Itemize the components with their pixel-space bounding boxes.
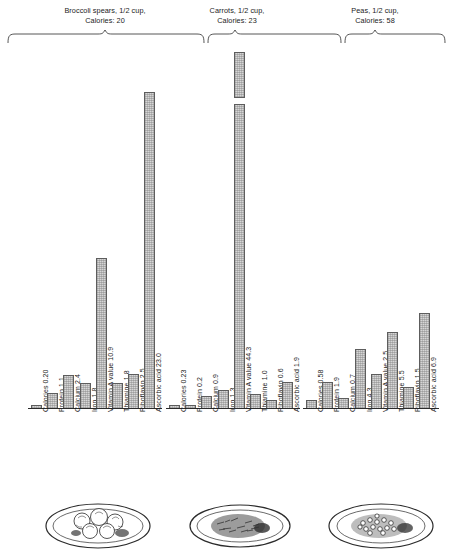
bar-calories (31, 405, 42, 408)
bar-protein (47, 393, 58, 408)
bar-calcium (338, 398, 349, 408)
bar-iron (355, 349, 366, 408)
bar-riboflavin (403, 387, 414, 408)
bar-protein (322, 382, 333, 408)
bar-riboflavin (266, 400, 277, 408)
bar-thiamine (250, 394, 261, 408)
bar-protein (185, 405, 196, 408)
plot-area: Calories 0.20Protein 1.1Calcium 2.4Iron … (0, 0, 453, 553)
bar-label-ascorbic-acid: Ascorbic acid 23.0 (155, 353, 163, 412)
bar-riboflavin (128, 374, 139, 408)
bar-calcium (201, 396, 212, 408)
bar-calories (169, 405, 180, 408)
bar-iron (80, 383, 91, 408)
bar-vitamin-a-value (96, 258, 107, 408)
bar-iron (218, 390, 229, 408)
plate-illustration-broccoli (42, 500, 154, 552)
bar-ascorbic-acid (282, 382, 293, 408)
bar-ascorbic-acid (419, 313, 430, 408)
nutrition-bar-chart: Broccoli spears, 1/2 cup, Calories: 20 C… (0, 0, 453, 553)
bar-thiamine (387, 332, 398, 408)
bar-label-ascorbic-acid: Ascorbic acid 1.9 (293, 357, 301, 412)
bar-ascorbic-acid (144, 92, 155, 408)
bar-calcium (63, 375, 74, 408)
bar-vitamin-a-value-upper (234, 52, 245, 98)
bar-vitamin-a-value (371, 374, 382, 408)
bar-calories (306, 400, 317, 408)
bar-thiamine (112, 383, 123, 408)
plate-illustration-carrots (185, 500, 295, 552)
plate-illustration-peas (325, 500, 437, 552)
bar-label-ascorbic-acid: Ascorbic acid 6.9 (430, 357, 438, 412)
bar-vitamin-a-value-lower (234, 104, 245, 408)
